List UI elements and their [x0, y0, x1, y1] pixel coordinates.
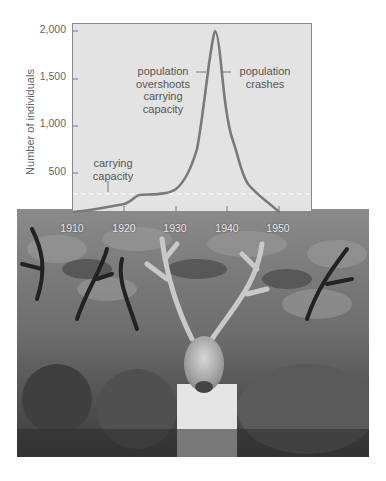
annotation-text: population	[130, 65, 196, 78]
population-curve-svg	[73, 24, 313, 213]
population-curve	[73, 31, 279, 212]
reindeer-photo-art	[17, 209, 369, 457]
annotation-text: capacity	[130, 103, 196, 116]
y-tick-500: 500	[26, 165, 66, 177]
annotation-text: carrying	[81, 157, 145, 170]
y-tick-1500: 1,500	[26, 70, 66, 82]
y-tick-1000: 1,000	[26, 117, 66, 129]
reindeer-photo	[17, 209, 369, 457]
annotation-carrying-capacity: carrying capacity	[81, 157, 145, 182]
x-tick-1940: 1940	[207, 222, 247, 234]
x-tick-1950: 1950	[258, 222, 298, 234]
x-tick-1910: 1910	[52, 222, 92, 234]
annotation-text: crashes	[234, 78, 296, 91]
annotation-text: capacity	[81, 170, 145, 183]
annotation-text: carrying	[130, 90, 196, 103]
annotation-overshoot: population overshoots carrying capacity	[130, 65, 196, 115]
annotation-crash: population crashes	[234, 65, 296, 90]
plot-area	[72, 23, 312, 212]
x-tick-1920: 1920	[104, 222, 144, 234]
annotation-text: overshoots	[130, 78, 196, 91]
annotation-text: population	[234, 65, 296, 78]
x-tick-1930: 1930	[155, 222, 195, 234]
y-tick-2000: 2,000	[26, 23, 66, 35]
